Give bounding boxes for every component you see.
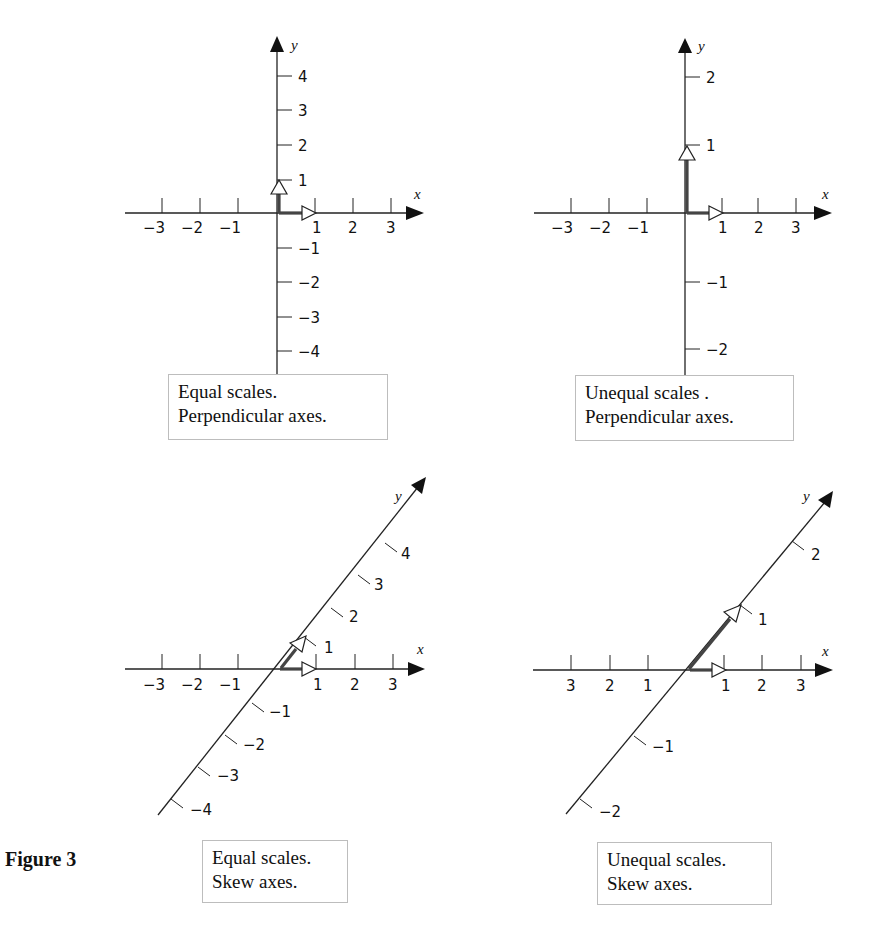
x-tick-label: 2 [754,219,764,237]
y-tick-label: 3 [374,576,384,594]
y-axis-arrow-icon [270,36,284,52]
panel-equal-perpendicular: x y −3 −2 −1 1 2 3 4 3 2 1 −1 −2 −3 −4 [125,36,424,374]
y-tick-label: 1 [298,172,308,190]
x-tick-label: 3 [388,676,398,694]
y-axis-arrow-icon [678,38,692,53]
caption-unequal-skew: Unequal scales. Skew axes. [597,842,772,905]
panel-equal-skew: x −3 −2 −1 1 2 3 y 4 3 2 1 −1 −2 −3 −4 [125,477,426,819]
x-axis-arrow-icon [408,662,425,676]
figure-3: x y −3 −2 −1 1 2 3 4 3 2 1 −1 −2 −3 −4 [0,0,875,951]
x-axis-label: x [413,186,421,202]
unit-vector-y-arrow-icon [724,605,741,622]
y-axis [566,502,825,814]
x-tick-label: 3 [386,219,396,237]
x-tick-label: −2 [181,219,203,237]
x-tick-label: 1 [312,219,322,237]
y-tick-label: −4 [298,343,320,361]
x-tick-label: 2 [348,219,358,237]
x-tick-label: −3 [551,219,573,237]
y-tick-label: 4 [298,68,308,86]
y-axis-arrow-icon [411,477,426,494]
x-tick-label: −2 [181,676,203,694]
x-tick-label: −1 [627,219,649,237]
caption-unequal-perpendicular: Unequal scales . Perpendicular axes. [575,375,794,441]
x-tick-label: 1 [721,677,731,695]
y-axis-arrow-icon [818,491,833,508]
y-axis-label: y [393,488,402,504]
y-tick-label: −1 [706,274,728,292]
y-tick-label: 2 [349,608,359,626]
y-tick-label: −1 [298,240,320,258]
x-tick-label: −1 [219,219,241,237]
figure-label: Figure 3 [5,848,76,871]
caption-equal-perpendicular: Equal scales. Perpendicular axes. [168,374,388,440]
x-tick-label: 3 [796,677,806,695]
x-tick-label: 1 [643,677,653,695]
y-tick-label: −2 [599,803,621,821]
y-axis [158,487,418,815]
caption-line: Equal scales. [212,846,338,870]
unit-vector-y-arrow-icon [271,180,287,194]
caption-line: Perpendicular axes. [585,405,784,429]
caption-line: Unequal scales . [585,381,784,405]
unit-vector-x-arrow-icon [302,662,316,676]
y-tick-label: −2 [298,274,320,292]
x-axis-arrow-icon [406,206,424,220]
y-tick-label: −1 [652,738,674,756]
x-axis-arrow-icon [814,206,832,220]
x-tick-label: −2 [589,219,611,237]
x-axis-label: x [416,641,424,657]
unit-vector-x-arrow-icon [302,206,316,220]
unit-vector-y-arrow-icon [679,146,695,160]
caption-equal-skew: Equal scales. Skew axes. [202,840,348,903]
x-tick-label: 1 [313,676,323,694]
y-tick-label: −3 [298,309,320,327]
y-axis-label: y [801,488,810,504]
caption-line: Skew axes. [212,870,338,894]
y-tick-label: 1 [706,137,716,155]
x-tick-label: −1 [219,676,241,694]
x-axis-arrow-icon [815,663,833,677]
unit-vector-y [281,649,296,668]
panel-unequal-skew: x 3 2 1 1 2 3 y 2 1 −1 −2 [533,488,833,821]
y-tick-label: 1 [758,611,768,629]
x-tick-label: 2 [350,676,360,694]
caption-line: Unequal scales. [607,848,762,872]
x-tick-label: 2 [757,677,767,695]
x-tick-label: 3 [566,677,576,695]
y-tick-label: 4 [401,545,411,563]
x-tick-label: −3 [143,676,165,694]
x-axis-label: x [821,186,829,202]
panel-unequal-perpendicular: x y −3 −2 −1 1 2 3 2 1 −1 −2 [534,38,832,375]
y-tick-label: −3 [217,767,239,785]
y-tick-label: −2 [706,341,728,359]
caption-line: Skew axes. [607,872,762,896]
x-axis-label: x [821,643,829,659]
unit-vector-x-arrow-icon [709,206,723,220]
y-tick-label: 2 [811,546,821,564]
x-tick-label: 3 [791,219,801,237]
figure-canvas: x y −3 −2 −1 1 2 3 4 3 2 1 −1 −2 −3 −4 [0,0,875,951]
y-tick-label: −2 [243,736,265,754]
y-tick-label: 2 [298,137,308,155]
caption-line: Equal scales. [178,380,378,404]
x-tick-label: 2 [605,677,615,695]
y-axis-label: y [696,38,705,54]
y-tick-label: 3 [298,102,308,120]
y-tick-label: −1 [269,703,291,721]
y-axis-label: y [289,37,298,53]
y-tick-label: 2 [706,69,716,87]
y-tick-label: 1 [324,639,334,657]
y-tick-label: −4 [190,801,212,819]
x-tick-label: 1 [718,219,728,237]
x-tick-label: −3 [143,219,165,237]
caption-line: Perpendicular axes. [178,404,378,428]
